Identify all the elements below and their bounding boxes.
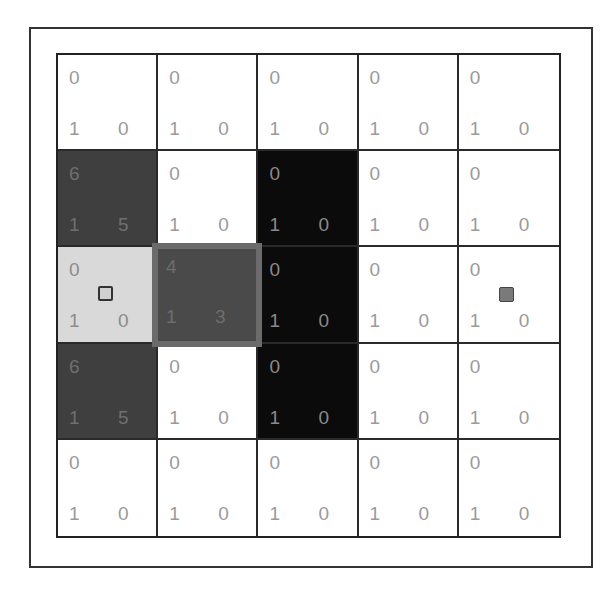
cell-value-top: 6 [69,357,80,376]
cell-value-bottom-left: 1 [470,311,481,330]
cell-value-bottom-left: 1 [470,215,481,234]
cell-value-bottom-left: 1 [69,504,80,523]
cell-value-bottom-left: 1 [169,408,180,427]
cell-value-bottom-right: 0 [318,311,329,330]
game-grid: 0100100100100106150100100100100100100100… [56,53,561,538]
cell-value-top: 0 [69,260,80,279]
cell-value-top: 0 [269,68,280,87]
cell-value-bottom-left: 1 [370,215,381,234]
grid-cell-r2-c3[interactable]: 010 [359,247,459,343]
cell-value-bottom-left: 1 [470,504,481,523]
cell-value-top: 0 [370,260,381,279]
cell-value-bottom-left: 1 [69,311,80,330]
cell-value-bottom-right: 0 [218,408,229,427]
cell-value-bottom-right: 0 [519,215,530,234]
grid-cell-r3-c1[interactable]: 010 [158,344,258,440]
cell-value-bottom-left: 1 [470,408,481,427]
cell-value-top: 6 [69,164,80,183]
grid-cell-r0-c0[interactable]: 010 [58,55,158,151]
cell-value-top: 0 [269,453,280,472]
grid-cell-r4-c1[interactable]: 010 [158,440,258,536]
cell-value-bottom-right: 0 [218,215,229,234]
cell-value-bottom-right: 5 [118,408,129,427]
cell-value-bottom-left: 1 [169,119,180,138]
cell-value-bottom-right: 0 [419,215,430,234]
cell-value-top: 0 [69,453,80,472]
cell-value-bottom-left: 1 [370,311,381,330]
grid-cell-r4-c0[interactable]: 010 [58,440,158,536]
cell-value-bottom-right: 0 [118,311,129,330]
cell-value-bottom-right: 0 [318,119,329,138]
cell-value-bottom-right: 0 [318,408,329,427]
grid-cell-r0-c3[interactable]: 010 [359,55,459,151]
cell-value-bottom-right: 0 [118,504,129,523]
cell-value-bottom-right: 3 [215,307,226,326]
cell-value-bottom-left: 1 [269,215,280,234]
cell-value-bottom-right: 0 [419,311,430,330]
cell-value-bottom-left: 1 [370,504,381,523]
grid-cell-r0-c2[interactable]: 010 [258,55,358,151]
highlighted-cell[interactable]: 4 1 3 [152,243,262,347]
cell-value-top: 0 [269,357,280,376]
cell-value-bottom-left: 1 [269,408,280,427]
agent-marker-icon [98,286,113,301]
grid-cell-r3-c3[interactable]: 010 [359,344,459,440]
cell-value-top: 0 [169,357,180,376]
cell-value-top: 0 [470,164,481,183]
cell-value-bottom-left: 1 [69,215,80,234]
cell-value-bottom-left: 1 [470,119,481,138]
grid-cell-r4-c2[interactable]: 010 [258,440,358,536]
cell-value-bottom-left: 1 [69,119,80,138]
cell-value-top: 0 [370,453,381,472]
cell-value-top: 0 [169,164,180,183]
cell-value-bottom-left: 1 [69,408,80,427]
cell-value-top: 0 [69,68,80,87]
grid-cell-r4-c3[interactable]: 010 [359,440,459,536]
grid-cell-r3-c4[interactable]: 010 [459,344,559,440]
cell-value-bottom-right: 0 [519,311,530,330]
cell-value-top: 0 [269,164,280,183]
cell-value-bottom-left: 1 [169,504,180,523]
cell-value-top: 0 [169,68,180,87]
cell-value-bottom-right: 0 [318,215,329,234]
cell-value-bottom-left: 1 [269,504,280,523]
cell-value-top: 0 [269,260,280,279]
grid-cell-r2-c2[interactable]: 010 [258,247,358,343]
grid-cell-r3-c0[interactable]: 615 [58,344,158,440]
cell-value-bottom-right: 0 [519,408,530,427]
cell-value-bottom-right: 0 [419,119,430,138]
grid-cell-r3-c2[interactable]: 010 [258,344,358,440]
cell-value-bottom-left: 1 [370,119,381,138]
cell-value-top: 0 [470,453,481,472]
cell-value-bottom-left: 1 [169,215,180,234]
grid-cell-r0-c4[interactable]: 010 [459,55,559,151]
cell-value-bottom-right: 0 [218,119,229,138]
cell-value-bottom-right: 0 [519,119,530,138]
cell-value-bottom-right: 0 [318,504,329,523]
grid-cell-r1-c3[interactable]: 010 [359,151,459,247]
grid-cell-r1-c2[interactable]: 010 [258,151,358,247]
grid-cell-r1-c4[interactable]: 010 [459,151,559,247]
cell-value-bottom-left: 1 [166,307,177,326]
cell-value-top: 4 [166,257,177,276]
cell-value-top: 0 [370,68,381,87]
grid-cell-r1-c1[interactable]: 010 [158,151,258,247]
cell-value-top: 0 [470,68,481,87]
cell-value-bottom-left: 1 [269,119,280,138]
cell-value-bottom-right: 5 [118,215,129,234]
cell-value-top: 0 [169,453,180,472]
grid-cell-r1-c0[interactable]: 615 [58,151,158,247]
cell-value-top: 0 [370,164,381,183]
cell-value-top: 0 [470,357,481,376]
cell-value-bottom-right: 0 [519,504,530,523]
cell-value-bottom-left: 1 [269,311,280,330]
cell-value-top: 0 [470,260,481,279]
grid-cell-r4-c4[interactable]: 010 [459,440,559,536]
cell-value-bottom-left: 1 [370,408,381,427]
goal-marker-icon [499,287,514,302]
cell-value-bottom-right: 0 [419,408,430,427]
cell-value-top: 0 [370,357,381,376]
grid-cell-r0-c1[interactable]: 010 [158,55,258,151]
cell-value-bottom-right: 0 [419,504,430,523]
cell-value-bottom-right: 0 [218,504,229,523]
